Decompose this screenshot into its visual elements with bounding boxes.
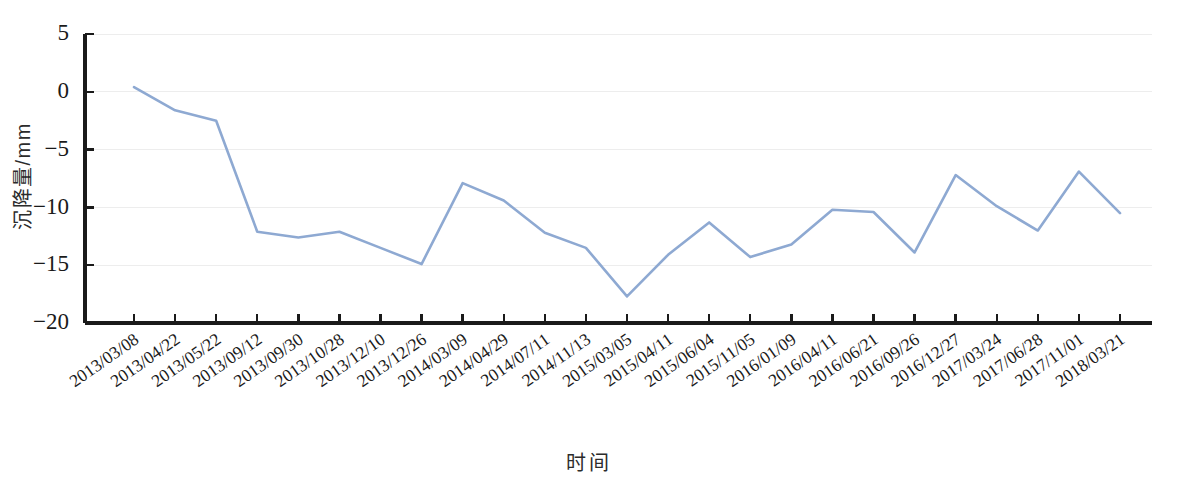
y-axis-title: 沉降量/mm (12, 122, 34, 230)
y-tick-label: −5 (45, 136, 69, 161)
y-tick-label: −10 (33, 194, 69, 219)
tick-marks (85, 34, 1120, 323)
axes (85, 34, 1152, 323)
y-tick-label: −15 (33, 251, 69, 276)
y-tick-label: −20 (33, 309, 69, 334)
settlement-line-chart: 50−5−10−15−20 2013/03/082013/04/222013/0… (0, 0, 1177, 501)
gridlines (85, 34, 1152, 265)
y-tick-label: 0 (58, 78, 70, 103)
x-axis-title: 时间 (566, 452, 612, 474)
chart-canvas: 50−5−10−15−20 2013/03/082013/04/222013/0… (0, 0, 1177, 501)
y-tick-label: 5 (58, 20, 70, 45)
y-axis-tick-labels: 50−5−10−15−20 (33, 20, 69, 334)
x-axis-tick-labels: 2013/03/082013/04/222013/05/222013/09/12… (66, 329, 1129, 391)
